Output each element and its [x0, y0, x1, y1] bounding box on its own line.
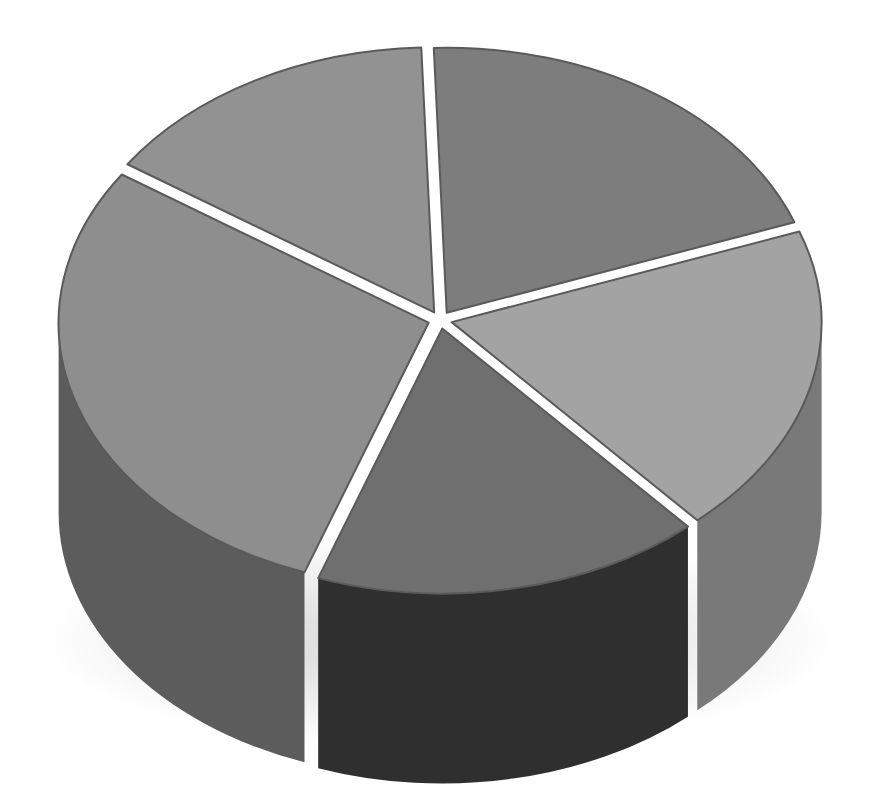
slice-tops — [59, 48, 822, 594]
pie-chart-svg — [0, 0, 875, 795]
